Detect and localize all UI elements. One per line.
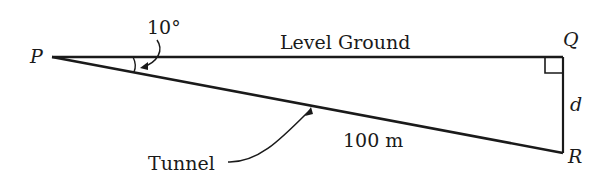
angle-pointer-arrow bbox=[143, 40, 160, 67]
right-angle-marker bbox=[545, 57, 563, 73]
tunnel-line bbox=[52, 57, 563, 153]
level-ground-label: Level Ground bbox=[280, 31, 410, 53]
tunnel-label: Tunnel bbox=[148, 152, 215, 174]
angle-arc bbox=[133, 57, 135, 72]
angle-label: 10° bbox=[147, 16, 181, 38]
tunnel-triangle-diagram: P Q R d 10° Level Ground 100 m Tunnel bbox=[0, 0, 612, 181]
side-d-label: d bbox=[570, 93, 582, 115]
hypotenuse-length-label: 100 m bbox=[343, 129, 403, 151]
point-q-label: Q bbox=[563, 28, 579, 50]
tunnel-pointer-arrow bbox=[228, 110, 310, 162]
angle-arrowhead-icon bbox=[140, 62, 148, 70]
point-p-label: P bbox=[29, 45, 44, 67]
point-r-label: R bbox=[567, 145, 582, 167]
tunnel-arrowhead-icon bbox=[305, 107, 313, 116]
